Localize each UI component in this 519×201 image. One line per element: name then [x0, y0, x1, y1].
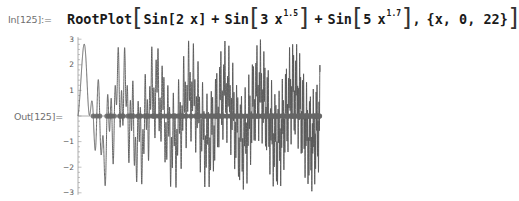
y-tick-label: −3 [63, 188, 74, 197]
y-tick-label: 2 [69, 60, 74, 69]
close-bracket: ] [509, 6, 518, 30]
y-tick-label: −1 [63, 137, 74, 146]
y-tick-label: 1 [69, 86, 74, 95]
y-tick-label: 3 [69, 35, 74, 44]
y-tick-label: −2 [63, 163, 74, 172]
root-markers [91, 113, 322, 118]
